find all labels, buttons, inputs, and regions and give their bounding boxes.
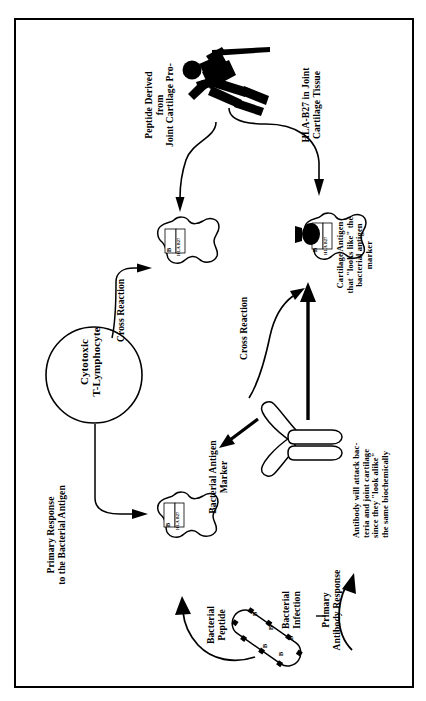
label-peptide-derived: Peptide Derived from Joint Cartilage Pro… bbox=[144, 30, 176, 180]
bacterium-b-2: B bbox=[268, 626, 275, 630]
arrow-antibody-to-cartilage bbox=[300, 282, 316, 420]
arrow-cross-reaction-bottom bbox=[249, 288, 305, 398]
bacterium-b-1: B bbox=[252, 612, 259, 616]
diagram-frame: Peptide Derived from Joint Cartilage Pro… bbox=[14, 18, 414, 688]
label-primary-antibody-response: Primary Antibody Response bbox=[321, 545, 342, 675]
label-cytotoxic-t-lymphocyte: Cytotoxic T-Lymphocyte bbox=[78, 312, 103, 412]
cell-hla-b27-top bbox=[158, 217, 219, 263]
label-bacterial-peptide: Bacterial Peptide bbox=[206, 585, 227, 665]
cell-marker-b-bottom: B bbox=[165, 523, 172, 527]
cell-marker-hla-bottom: HLA B27 bbox=[176, 512, 181, 530]
antibody-icon bbox=[261, 402, 342, 476]
bacterium-b-4: B bbox=[278, 652, 285, 656]
label-antibody-note: Antibody will attack bac- teria and join… bbox=[352, 408, 391, 538]
cell-marker-hla-right: HLA B27 bbox=[324, 237, 329, 255]
cell-marker-b-top: B bbox=[166, 248, 173, 252]
bacterium-b-5: B bbox=[288, 636, 295, 640]
arrow-lymphocyte-to-cell bbox=[95, 424, 148, 519]
label-primary-response: Primary Response to the Bacterial Antige… bbox=[46, 450, 67, 620]
arrow-peptide-to-cell bbox=[176, 122, 217, 212]
label-cross-reaction-bottom: Cross Reaction bbox=[239, 240, 250, 360]
cell-marker-b-right: B bbox=[312, 248, 319, 252]
label-bacterial-antigen-marker: Bacterial Antigen Marker bbox=[208, 422, 229, 532]
label-cartilage-antigen: Cartilage Antigen that "looks like" the … bbox=[336, 190, 375, 320]
bacterium-b-3: B bbox=[262, 644, 269, 648]
falling-person-icon bbox=[183, 47, 271, 116]
label-hla-joint-tissue: HLA-B27 in Joint Cartilage Tissue bbox=[301, 30, 322, 180]
label-cross-reaction-top: Cross Reaction bbox=[116, 222, 127, 342]
diagram-page: Peptide Derived from Joint Cartilage Pro… bbox=[0, 0, 426, 701]
cell-marker-hla-top: HLA B27 bbox=[177, 238, 182, 256]
